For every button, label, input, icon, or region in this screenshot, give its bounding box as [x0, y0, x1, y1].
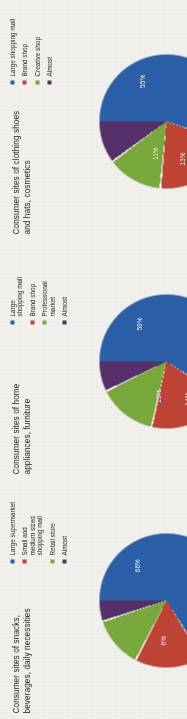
- legend-swatch-green-icon: [50, 559, 54, 563]
- rotated-canvas: Consumer sites of home appliances, furni…: [0, 240, 187, 480]
- legend-item: Retail store: [48, 485, 55, 563]
- legend-item: Large supermarket: [8, 485, 15, 563]
- rotated-canvas: Consumer sites of snacks, beverages, dai…: [0, 479, 187, 719]
- legend-swatch-green-icon: [35, 80, 39, 84]
- chart-title: Consumer sites of snacks, beverages, dai…: [10, 587, 32, 713]
- legend-swatch-red-icon: [22, 559, 26, 563]
- legend-swatch-blue-icon: [10, 320, 14, 324]
- legend-item: Brand shop: [28, 246, 35, 324]
- slice-value-label: 6%: [160, 635, 167, 645]
- legend-item-label: Large supermarket: [8, 501, 15, 555]
- legend-item-label: Creative shop: [33, 37, 40, 76]
- chart-block-snacks: Consumer sites of snacks, beverages, dai…: [0, 479, 187, 719]
- legend-swatch-purple-icon: [62, 559, 66, 563]
- legend-swatch-blue-icon: [10, 559, 14, 563]
- legend-item-label: Professional market: [40, 281, 55, 316]
- legend-swatch-blue-icon: [10, 80, 14, 84]
- legend-item: Small and medium sized shopping mall: [20, 485, 42, 563]
- legend-item: Almost: [45, 6, 52, 84]
- pie-chart: 59% 19% 14% 13%: [99, 294, 187, 428]
- legend-item-label: Almost: [45, 56, 52, 76]
- legend-item: Large shopping mall: [8, 6, 15, 84]
- chart-title: Consumer sites of home appliances, furni…: [10, 348, 32, 474]
- legend-item-label: Large shopping mall: [8, 18, 15, 76]
- slice-value-label: 59%: [136, 317, 143, 330]
- chart-title: Consumer sites of clothing shoes and hat…: [10, 108, 32, 234]
- legend-item-label: Almost: [60, 535, 67, 555]
- legend-item-label: Brand shop: [28, 283, 35, 316]
- legend-swatch-purple-icon: [47, 80, 51, 84]
- legend-item-label: Large shopping mall: [8, 277, 23, 316]
- pie-disc: [99, 294, 187, 428]
- rotated-canvas: Consumer sites of clothing shoes and hat…: [0, 0, 187, 240]
- legend-swatch-green-icon: [42, 320, 46, 324]
- legend-swatch-red-icon: [22, 80, 26, 84]
- chart-block-clothing: Consumer sites of clothing shoes and hat…: [0, 0, 187, 240]
- legend-item: Almost: [60, 485, 67, 563]
- legend-item: Large shopping mall: [8, 246, 23, 324]
- slice-value-label: 66%: [133, 559, 140, 572]
- legend-item: Professional market: [40, 246, 55, 324]
- legend-swatch-red-icon: [30, 320, 34, 324]
- chart-legend: Large shopping mall Brand shop Creative …: [8, 6, 58, 84]
- legend-item-label: Brand shop: [20, 43, 27, 76]
- scanned-page: Consumer sites of clothing shoes and hat…: [0, 0, 187, 719]
- chart-block-appliances: Consumer sites of home appliances, furni…: [0, 240, 187, 480]
- chart-legend: Large supermarket Small and medium sized…: [8, 485, 72, 563]
- pie-disc: [99, 533, 187, 667]
- legend-item: Almost: [60, 246, 67, 324]
- slice-value-label: 11%: [152, 147, 159, 160]
- legend-item: Brand shop: [20, 6, 27, 84]
- legend-swatch-purple-icon: [62, 320, 66, 324]
- legend-item: Creative shop: [33, 6, 40, 84]
- legend-item-label: Retail store: [48, 523, 55, 555]
- slice-value-label: 13%: [154, 389, 161, 402]
- pie-chart: 55% 21% 13% 11%: [99, 54, 187, 188]
- chart-legend: Large shopping mall Brand shop Professio…: [8, 246, 72, 324]
- slice-value-label: 13%: [179, 152, 186, 165]
- legend-item-label: Almost: [60, 296, 67, 316]
- legend-item-label: Small and medium sized shopping mall: [20, 516, 42, 555]
- pie-chart: 66% 16% 12% 6%: [99, 533, 187, 667]
- slice-value-label: 55%: [138, 74, 145, 87]
- slice-value-label: 14%: [184, 392, 187, 405]
